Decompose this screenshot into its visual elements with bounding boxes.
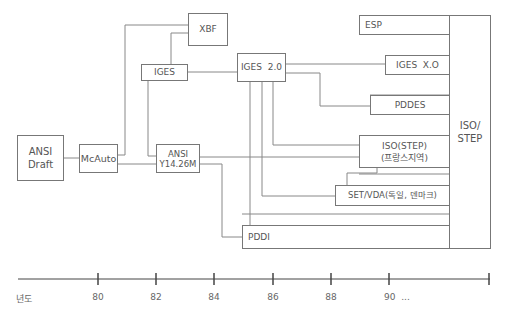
timeline-axis-label: 년도 xyxy=(16,292,32,305)
node-iges-xo: IGES X.O xyxy=(385,55,450,75)
node-pddes: PDDES xyxy=(370,95,450,115)
tick-label-90: 90 ... xyxy=(384,292,410,302)
tick-label-86: 86 xyxy=(267,292,278,302)
node-iges: IGES xyxy=(141,64,188,81)
node-set-vda: SET/VDA(독일, 덴마크) xyxy=(335,185,450,206)
timeline-axis xyxy=(18,273,490,285)
node-iso-step-france: ISO(STEP) (프랑스지역) xyxy=(359,135,450,168)
tick-label-84: 84 xyxy=(208,292,219,302)
node-iso-step: ISO/ STEP xyxy=(449,15,491,249)
tick-label-82: 82 xyxy=(150,292,161,302)
node-mcauto: McAuto xyxy=(79,144,118,173)
node-pddi: PDDI xyxy=(242,225,450,249)
tick-label-88: 88 xyxy=(325,292,336,302)
node-ansi-draft: ANSI Draft xyxy=(17,135,64,181)
node-esp: ESP xyxy=(359,15,450,35)
tick-label-80: 80 xyxy=(92,292,103,302)
node-ansi-y14: ANSI Y14.26M xyxy=(156,144,200,173)
node-xbf: XBF xyxy=(188,13,228,46)
node-iges-2-0: IGES 2.0 xyxy=(237,53,286,82)
